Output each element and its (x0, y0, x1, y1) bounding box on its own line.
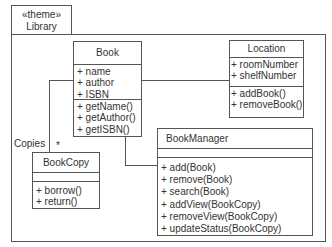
attribute: + shelfNumber (231, 70, 303, 81)
class-bookcopy-methods: + borrow() + return() (33, 182, 99, 208)
assoc-multiplicity: * (56, 140, 60, 152)
method: + removeBook() (231, 99, 303, 110)
class-location-name: Location (230, 41, 303, 58)
method: + add(Book) (161, 162, 312, 174)
assoc-role-copies: Copies (14, 138, 45, 150)
package-library-tab: «theme» Library (11, 5, 72, 35)
method: + search(Book) (161, 186, 312, 198)
class-book-name: Book (74, 42, 141, 65)
class-book-attributes: + name + author + ISBN (74, 65, 141, 100)
assoc-book-bookcopy-h (49, 80, 74, 81)
method: + getAuthor() (77, 112, 141, 123)
class-location-attributes: + roomNumber + shelfNumber (230, 58, 303, 87)
method: + updateStatus(BookCopy) (161, 223, 312, 235)
assoc-book-bookcopy-v (49, 80, 50, 153)
class-bookmanager-methods: + add(Book) + remove(Book) + search(Book… (158, 158, 312, 235)
method: + addBook() (231, 88, 303, 99)
method: + addView(BookCopy) (161, 199, 312, 211)
class-book[interactable]: Book + name + author + ISBN + getName() … (73, 41, 142, 137)
class-bookmanager-attributes (158, 149, 312, 158)
method: + removeView(BookCopy) (161, 211, 312, 223)
class-bookcopy[interactable]: BookCopy + borrow() + return() (32, 152, 100, 209)
class-bookcopy-name: BookCopy (33, 153, 99, 173)
class-bookmanager-name: BookManager (158, 129, 312, 149)
class-bookcopy-attributes (33, 173, 99, 182)
class-book-methods: + getName() + getAuthor() + getISBN() (74, 100, 141, 135)
method: + getName() (77, 101, 141, 112)
attribute: + roomNumber (231, 59, 303, 70)
method: + getISBN() (77, 124, 141, 135)
assoc-book-bookmanager-h (125, 165, 158, 166)
attribute: + name (77, 66, 141, 77)
method: + borrow() (36, 185, 99, 196)
assoc-book-location (141, 80, 230, 81)
method: + remove(Book) (161, 174, 312, 186)
class-bookmanager[interactable]: BookManager + add(Book) + remove(Book) +… (157, 128, 313, 236)
package-stereotype: «theme» (12, 9, 71, 21)
attribute: + author (77, 77, 141, 88)
class-location[interactable]: Location + roomNumber + shelfNumber + ad… (229, 40, 304, 118)
class-location-methods: + addBook() + removeBook() (230, 87, 303, 111)
attribute: + ISBN (77, 89, 141, 100)
assoc-book-bookmanager-v (125, 136, 126, 166)
method: + return() (36, 196, 99, 207)
package-name: Library (12, 21, 71, 33)
